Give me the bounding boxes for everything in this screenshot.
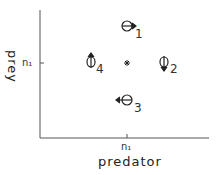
y-axis-label: prey <box>6 47 19 87</box>
point-4-label: 4 <box>96 63 104 75</box>
point-4-icon <box>87 53 95 68</box>
point-1-label: 1 <box>135 28 143 40</box>
point-3-icon <box>116 95 132 105</box>
point-2-icon <box>160 56 168 71</box>
point-2-label: 2 <box>170 63 178 75</box>
y-tick-label: n₁ <box>22 58 32 68</box>
phase-diagram <box>0 0 218 175</box>
equilibrium-star-icon <box>124 60 130 66</box>
point-3-label: 3 <box>134 102 142 114</box>
point-1-icon <box>122 21 136 31</box>
x-tick-label: n₁ <box>121 142 131 152</box>
x-axis-label: predator <box>98 155 162 168</box>
